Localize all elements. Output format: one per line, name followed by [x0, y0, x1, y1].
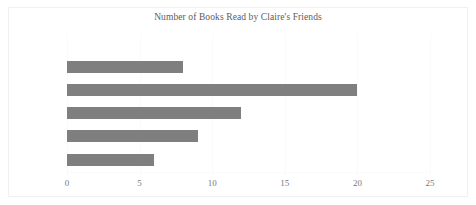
bar-chart: Number of Books Read by Claire's Friends… [0, 0, 476, 205]
x-axis-baseline [67, 172, 430, 173]
bar-lewis [67, 61, 183, 73]
bar-anika [67, 130, 198, 142]
bar-row: Anika [67, 125, 430, 148]
bar-row: Hillary [67, 79, 430, 102]
x-tick-25: 25 [426, 178, 435, 188]
x-tick-0: 0 [65, 178, 70, 188]
bar-hillary [67, 84, 357, 96]
bar-row: Donald [67, 33, 430, 56]
bar-siobhan [67, 154, 154, 166]
x-tick-20: 20 [353, 178, 362, 188]
x-tick-15: 15 [280, 178, 289, 188]
bar-row: Lewis [67, 56, 430, 79]
bar-row: Olivia [67, 102, 430, 125]
x-tick-5: 5 [137, 178, 142, 188]
bar-row: Siobhan [67, 149, 430, 172]
plot-area: DonaldLewisHillaryOliviaAnikaSiobhan [67, 33, 430, 172]
x-tick-10: 10 [208, 178, 217, 188]
gridline-x-25 [430, 33, 431, 176]
chart-title: Number of Books Read by Claire's Friends [0, 12, 476, 22]
bar-olivia [67, 107, 241, 119]
